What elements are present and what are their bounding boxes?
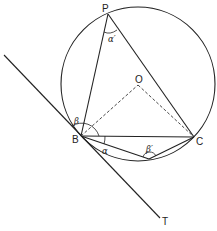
angle-arc-alpha-prime xyxy=(104,30,117,33)
segment-PC xyxy=(108,14,194,137)
geometry-diagram: P O B C T α′ β α β′ xyxy=(0,0,217,231)
angle-label-beta-prime: β′ xyxy=(145,144,153,154)
label-T: T xyxy=(162,216,168,227)
segment-BD xyxy=(81,136,149,159)
label-B: B xyxy=(72,134,79,145)
label-C: C xyxy=(196,136,203,147)
radius-OC-dashed xyxy=(138,85,194,137)
label-P: P xyxy=(102,3,109,14)
angle-label-beta: β xyxy=(73,116,79,126)
radius-OB-dashed xyxy=(81,85,138,136)
angle-arc-alpha xyxy=(104,136,105,144)
segment-BC xyxy=(81,136,194,137)
angle-label-alpha: α xyxy=(102,146,108,156)
angle-label-alpha-prime: α′ xyxy=(108,34,116,44)
label-O: O xyxy=(135,74,143,85)
